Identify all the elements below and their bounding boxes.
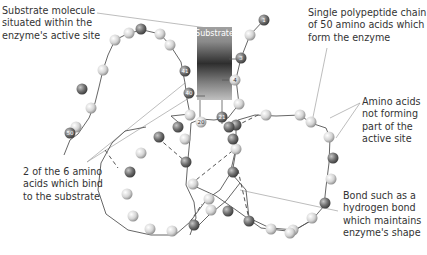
amino-acid [124, 28, 135, 39]
label-polypeptide-chain: Single polypeptide chain of 50 amino aci… [308, 7, 426, 44]
amino-acid [320, 198, 331, 209]
svg-text:21: 21 [219, 114, 226, 120]
amino-acid [155, 29, 166, 40]
amino-acid-50: 50 [65, 128, 76, 139]
amino-acid [224, 122, 235, 133]
amino-acid-40: 40 [184, 88, 195, 99]
svg-text:20: 20 [198, 119, 205, 125]
amino-acid [122, 189, 133, 200]
label-not-active-site: Amino acids not forming part of the acti… [362, 96, 420, 145]
amino-acid [167, 226, 178, 237]
svg-text:4: 4 [233, 77, 237, 83]
amino-acid [295, 110, 306, 121]
amino-acid [326, 174, 337, 185]
amino-acid [110, 35, 121, 46]
svg-text:50: 50 [67, 130, 74, 136]
svg-text:1: 1 [262, 17, 266, 23]
amino-acid [189, 220, 200, 231]
amino-acid [228, 134, 239, 145]
amino-acid [285, 228, 296, 239]
amino-acid [244, 216, 255, 227]
amino-acid [86, 103, 97, 114]
amino-acid [228, 167, 239, 178]
amino-acid-21: 21 [217, 112, 228, 123]
amino-acid [98, 65, 109, 76]
amino-acid-20: 20 [196, 117, 207, 128]
substrate-label: Substrate [195, 29, 234, 38]
amino-acid [204, 194, 215, 205]
amino-acid [77, 84, 88, 95]
amino-acid [128, 211, 139, 222]
amino-acid [234, 99, 245, 110]
amino-acid [154, 132, 165, 143]
label-bond: Bond such as a hydrogen bond which maint… [343, 190, 421, 239]
amino-acid [266, 224, 277, 235]
amino-acid-1: 1 [259, 15, 270, 26]
amino-acid [173, 122, 184, 133]
amino-acid [125, 167, 136, 178]
amino-acid-3: 3 [236, 53, 247, 64]
amino-acid [165, 40, 176, 51]
amino-acid [181, 157, 192, 168]
amino-acid [324, 132, 335, 143]
svg-text:41: 41 [182, 68, 189, 74]
amino-acid [245, 30, 256, 41]
amino-acid [307, 213, 318, 224]
label-substrate-molecule: Substrate molecule situated within the e… [2, 5, 100, 42]
amino-acid [136, 148, 147, 159]
label-bind-substrate: 2 of the 6 amino acids which bind to the… [23, 166, 103, 203]
amino-acid [223, 206, 234, 217]
amino-acid [136, 24, 147, 35]
amino-acid-41: 41 [180, 66, 191, 77]
amino-acid [328, 153, 339, 164]
amino-acid [261, 110, 272, 121]
amino-acid [185, 110, 196, 121]
amino-acid [206, 205, 217, 216]
amino-acid [231, 144, 242, 155]
amino-acid [145, 224, 156, 235]
svg-text:3: 3 [239, 55, 243, 61]
amino-acid [188, 179, 199, 190]
amino-acid [180, 134, 191, 145]
amino-acid [306, 117, 317, 128]
amino-acid-4: 4 [230, 75, 241, 86]
svg-text:40: 40 [186, 90, 193, 96]
